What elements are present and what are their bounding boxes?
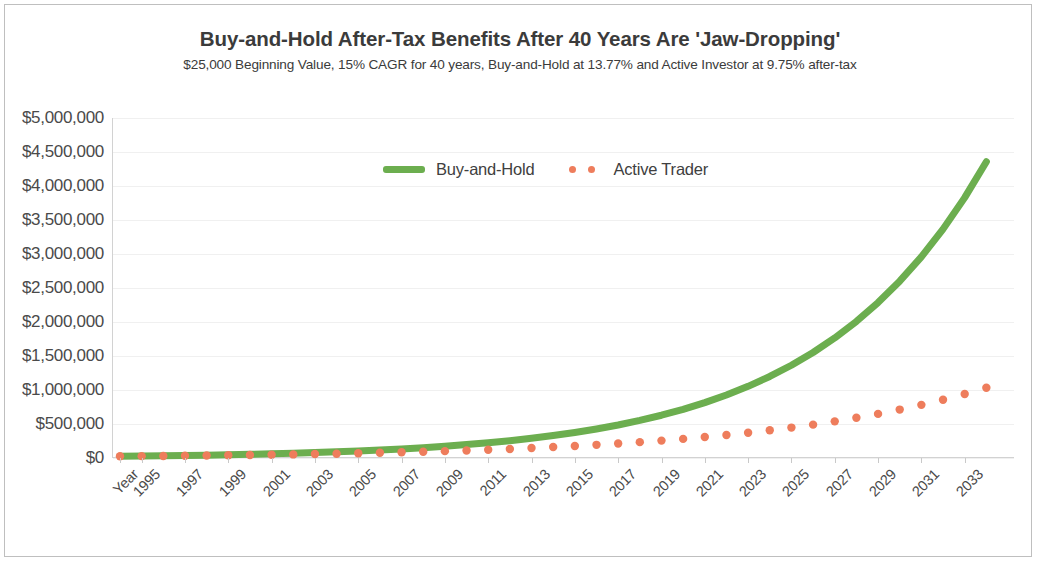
chart-legend: Buy-and-Hold Active Trader (383, 160, 708, 179)
x-axis-tick (272, 458, 273, 463)
legend-label-active-trader: Active Trader (614, 160, 709, 179)
data-point (787, 423, 795, 431)
x-axis-tick-label: 2027 (822, 466, 856, 500)
data-point (527, 444, 535, 452)
x-axis-tick-label: 2007 (389, 466, 423, 500)
x-axis-tick-label: 2009 (433, 466, 467, 500)
x-axis-tick (921, 458, 922, 463)
x-axis-tick-label: 1997 (173, 466, 207, 500)
legend-dot-swatch-icon (561, 166, 603, 173)
x-axis-tick (185, 458, 186, 463)
data-point (354, 449, 362, 457)
title-block: Buy-and-Hold After-Tax Benefits After 40… (60, 26, 980, 74)
chart-screenshot: Buy-and-Hold After-Tax Benefits After 40… (0, 0, 1039, 568)
x-axis-tick-label: 2003 (303, 466, 337, 500)
data-point (571, 442, 579, 450)
x-axis-tick-label: 2023 (736, 466, 770, 500)
x-axis-tick (315, 458, 316, 463)
legend-label-buy-and-hold: Buy-and-Hold (436, 160, 535, 179)
x-axis-tick-label: 2017 (606, 466, 640, 500)
x-axis-tick-label: 1999 (216, 466, 250, 500)
data-point (766, 426, 774, 434)
x-axis-tick-label: 2005 (346, 466, 380, 500)
x-axis-tick-label: 2025 (779, 466, 813, 500)
x-axis-tick-label: 2031 (909, 466, 943, 500)
data-point (831, 417, 839, 425)
data-point (896, 405, 904, 413)
data-point (744, 429, 752, 437)
data-point (376, 449, 384, 457)
y-axis-tick-label: $1,000,000 (22, 380, 104, 400)
x-axis-tick (618, 458, 619, 463)
x-axis-tick (662, 458, 663, 463)
x-axis-tick (120, 458, 121, 463)
data-point (397, 448, 405, 456)
data-point (939, 395, 947, 403)
series-markers-active-trader (116, 384, 991, 461)
y-axis-tick-label: $4,000,000 (22, 176, 104, 196)
y-axis-tick-label: $2,500,000 (22, 278, 104, 298)
legend-item-active-trader[interactable]: Active Trader (561, 160, 709, 179)
x-axis-labels: Year199519971999200120032005200720092011… (113, 458, 1014, 553)
data-point (332, 449, 340, 457)
x-axis-tick (358, 458, 359, 463)
y-axis-tick-label: $5,000,000 (22, 108, 104, 128)
legend-item-buy-and-hold[interactable]: Buy-and-Hold (383, 160, 535, 179)
x-axis-tick (228, 458, 229, 463)
data-point (852, 414, 860, 422)
data-point (592, 441, 600, 449)
data-point (614, 439, 622, 447)
data-point (462, 446, 470, 454)
x-axis-tick-label: 2001 (259, 466, 293, 500)
data-point (636, 438, 644, 446)
data-point (657, 436, 665, 444)
x-axis-tick (142, 458, 143, 463)
y-axis-tick-label: $1,500,000 (22, 346, 104, 366)
legend-line-swatch-icon (383, 166, 425, 173)
data-point (311, 450, 319, 458)
data-point (874, 410, 882, 418)
x-axis-tick (878, 458, 879, 463)
data-point (441, 447, 449, 455)
y-axis-labels: $0$500,000$1,000,000$1,500,000$2,000,000… (0, 118, 104, 458)
x-axis-tick-label: 2013 (519, 466, 553, 500)
y-axis-tick-label: $3,000,000 (22, 244, 104, 264)
y-axis-tick-label: $500,000 (35, 414, 104, 434)
data-point (549, 443, 557, 451)
data-point (701, 433, 709, 441)
x-axis-tick-label: 2015 (563, 466, 597, 500)
data-point (960, 390, 968, 398)
x-axis-tick-label: 2019 (649, 466, 683, 500)
x-axis-tick (402, 458, 403, 463)
x-axis-tick-label: 2011 (477, 466, 510, 499)
data-point (917, 401, 925, 409)
x-axis-tick (705, 458, 706, 463)
data-point (679, 435, 687, 443)
x-axis-tick (445, 458, 446, 463)
chart-subtitle: $25,000 Beginning Value, 15% CAGR for 40… (60, 55, 980, 74)
data-point (506, 445, 514, 453)
x-axis-tick (488, 458, 489, 463)
chart-title: Buy-and-Hold After-Tax Benefits After 40… (60, 26, 980, 52)
y-axis-tick-label: $2,000,000 (22, 312, 104, 332)
x-axis-tick-label: 2021 (693, 466, 727, 500)
x-axis-tick (575, 458, 576, 463)
y-axis-tick-label: $0 (86, 448, 104, 468)
data-point (722, 431, 730, 439)
x-axis-tick-label: 2033 (952, 466, 986, 500)
x-axis-tick (965, 458, 966, 463)
data-point (982, 384, 990, 392)
x-axis-tick (748, 458, 749, 463)
series-line-buy-and-hold (120, 162, 986, 457)
data-point (484, 446, 492, 454)
x-axis-tick (835, 458, 836, 463)
data-point (809, 420, 817, 428)
y-axis-tick-label: $3,500,000 (22, 210, 104, 230)
data-point (419, 448, 427, 456)
x-axis-tick (791, 458, 792, 463)
x-axis-tick (532, 458, 533, 463)
x-axis-tick-label: 2029 (866, 466, 900, 500)
y-axis-tick-label: $4,500,000 (22, 142, 104, 162)
